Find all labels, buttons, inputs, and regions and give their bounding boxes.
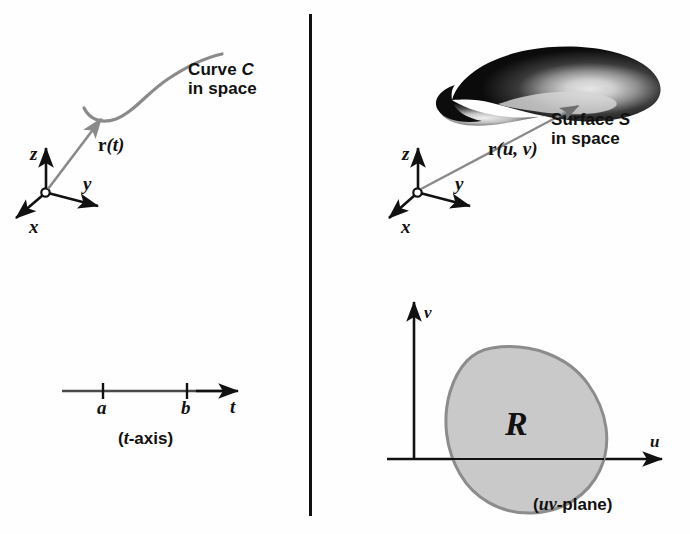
- curve-vector-arg: (t): [106, 134, 124, 155]
- curve-y-axis: [48, 193, 98, 206]
- t-axis-caption-rest: -axis): [129, 429, 173, 448]
- curve-symbol: C: [242, 60, 254, 79]
- curve-callout-line1: Curve: [188, 60, 237, 79]
- figure-root: Curve C in space r(t) z y x a b t (t-axi…: [0, 0, 690, 534]
- curve-callout-line2: in space: [188, 79, 257, 98]
- t-axis-tick-b-label: b: [181, 397, 191, 418]
- surface-callout-line1: Surface: [551, 110, 614, 129]
- surface-vector-label: r(u, v): [488, 138, 538, 159]
- curve-callout: Curve C in space: [188, 60, 257, 98]
- curve-x-label: x: [29, 216, 39, 237]
- surface-callout: Surface S in space: [551, 110, 630, 148]
- surface-y-label: y: [455, 173, 463, 194]
- surface-x-axis: [389, 195, 415, 218]
- t-axis-label: t: [230, 396, 235, 417]
- v-axis-label: v: [424, 303, 432, 322]
- u-axis-label: u: [650, 432, 659, 451]
- curve-position-vector: [48, 119, 101, 189]
- surface-vector-arg: (u, v): [496, 138, 537, 159]
- curve-x-axis: [16, 195, 43, 218]
- curve-vector-label: r(t): [98, 134, 124, 155]
- surface-x-label: x: [401, 216, 411, 237]
- uv-caption-var: uv: [539, 494, 557, 514]
- figure-canvas: [0, 0, 690, 534]
- t-axis-tick-a-label: a: [97, 397, 107, 418]
- surface-callout-line2: in space: [551, 129, 630, 148]
- uv-caption-rest: -plane): [557, 495, 613, 514]
- curve-y-label: y: [83, 173, 91, 194]
- surface-origin-marker: [413, 188, 421, 196]
- curve-origin-marker: [41, 188, 49, 196]
- t-axis-graphics: [62, 383, 238, 399]
- region-R-label: R: [505, 405, 528, 443]
- surface-z-label: z: [402, 143, 409, 164]
- curve-z-label: z: [30, 143, 37, 164]
- surface-symbol: S: [619, 110, 630, 129]
- t-axis-caption: (t-axis): [118, 428, 173, 448]
- surface-y-axis: [420, 193, 470, 206]
- uv-plane-caption: (uv-plane): [533, 494, 612, 514]
